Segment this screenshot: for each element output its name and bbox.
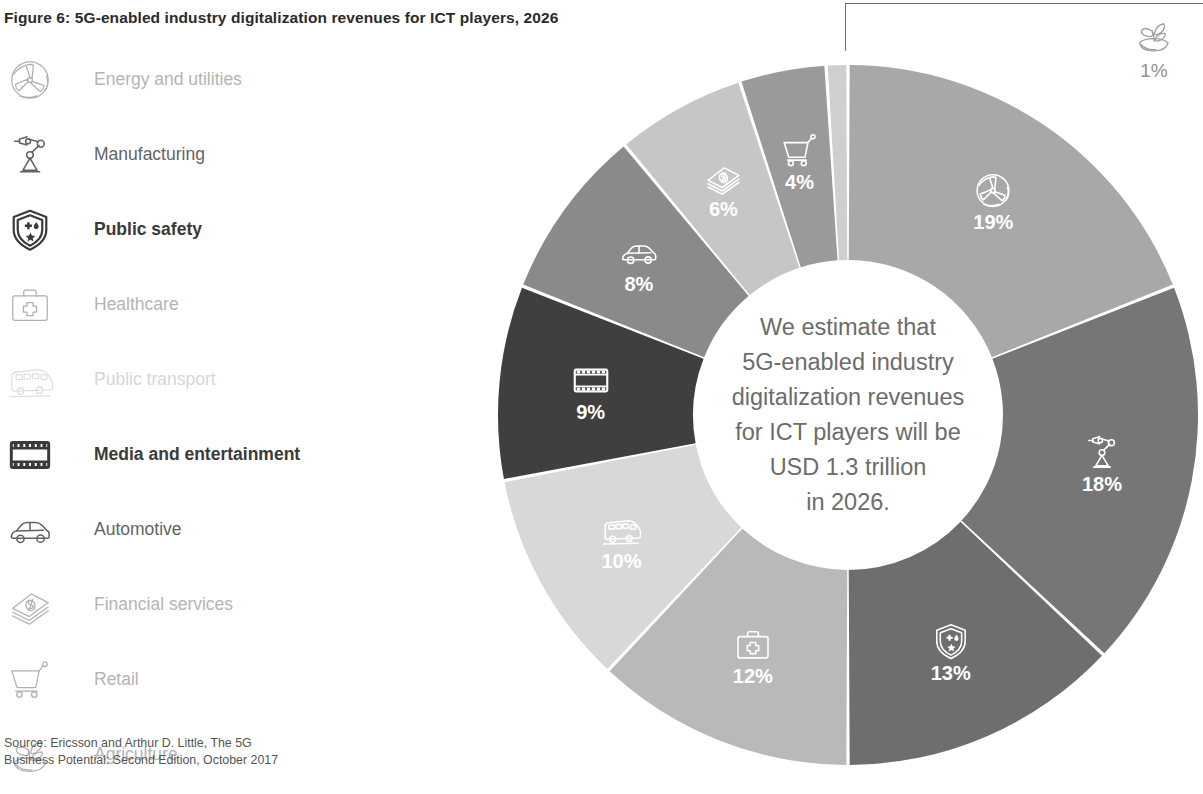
wind-turbine-icon (4, 54, 56, 106)
legend-item-financial-services: Financial services (4, 567, 424, 642)
source-note: Source: Ericsson and Arthur D. Little, T… (4, 735, 278, 768)
shield-icon (4, 204, 56, 256)
legend-item-retail: Retail (4, 642, 424, 717)
legend-item-label: Public safety (94, 219, 202, 240)
legend-item-label: Public transport (94, 369, 216, 390)
banknotes-icon (4, 579, 56, 631)
legend-item-healthcare: Healthcare (4, 267, 424, 342)
legend-item-energy-and-utilities: Energy and utilities (4, 42, 424, 117)
car-icon (4, 504, 56, 556)
legend-item-automotive: Automotive (4, 492, 424, 567)
shopping-cart-icon (4, 654, 56, 706)
seedling-icon (1115, 14, 1193, 58)
donut-slices (498, 65, 1198, 765)
legend-item-label: Financial services (94, 594, 233, 615)
first-aid-kit-icon (4, 279, 56, 331)
donut-svg (495, 62, 1201, 768)
agriculture-percent: 1% (1115, 60, 1193, 82)
legend: Energy and utilitiesManufacturingPublic … (4, 42, 424, 792)
legend-item-media-and-entertainment: Media and entertainment (4, 417, 424, 492)
legend-item-manufacturing: Manufacturing (4, 117, 424, 192)
donut-chart: We estimate that 5G-enabled industry dig… (495, 62, 1201, 768)
legend-item-label: Retail (94, 669, 139, 690)
legend-item-label: Healthcare (94, 294, 179, 315)
legend-item-label: Energy and utilities (94, 69, 242, 90)
legend-item-public-safety: Public safety (4, 192, 424, 267)
figure-title: Figure 6: 5G-enabled industry digitaliza… (4, 9, 558, 27)
film-strip-icon (4, 429, 56, 481)
robot-arm-icon (4, 129, 56, 181)
bus-icon (4, 354, 56, 406)
figure-page: Figure 6: 5G-enabled industry digitaliza… (0, 0, 1203, 794)
legend-item-label: Manufacturing (94, 144, 205, 165)
agriculture-callout: 1% (1115, 14, 1193, 82)
legend-item-label: Media and entertainment (94, 444, 300, 465)
legend-item-public-transport: Public transport (4, 342, 424, 417)
legend-item-label: Automotive (94, 519, 182, 540)
